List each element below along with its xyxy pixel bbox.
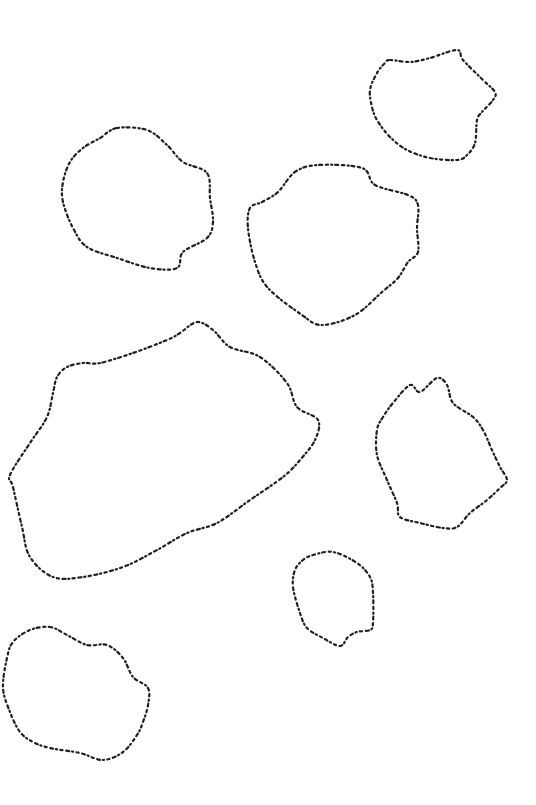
- blob-outline-small-bottom: [293, 552, 374, 646]
- blob-outline-top-right: [370, 50, 496, 160]
- blob-outline-large-left: [9, 322, 319, 579]
- drawing-canvas: [0, 0, 536, 805]
- blob-outline-right-middle: [376, 378, 507, 529]
- blob-outline-upper-left: [62, 127, 213, 269]
- blob-outline-center: [248, 165, 419, 325]
- blob-outlines: [0, 0, 536, 805]
- blob-outline-bottom-left: [3, 627, 149, 760]
